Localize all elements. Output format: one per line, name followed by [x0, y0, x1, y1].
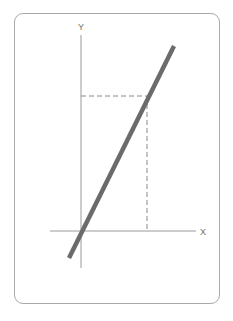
data-line [69, 46, 174, 258]
x-axis-label: X [200, 227, 206, 237]
y-axis-label: Y [78, 22, 84, 32]
line-chart: Y X [0, 0, 233, 321]
